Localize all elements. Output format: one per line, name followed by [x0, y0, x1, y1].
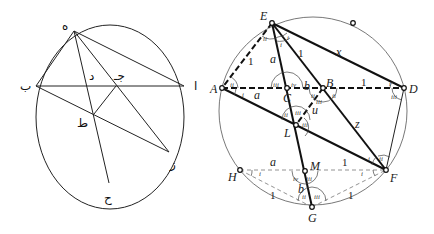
label-F: F: [389, 171, 398, 185]
point-G: [310, 205, 315, 210]
right-figure: E A C B D L M H F G 1 a 1 x a b 1 u z a …: [209, 9, 418, 225]
angle-A-bot: i: [242, 91, 244, 99]
label-A: A: [209, 82, 218, 96]
seg-EA: [222, 23, 272, 88]
point-F: [384, 168, 389, 173]
label-C: C: [283, 91, 292, 105]
angle-arcs: [231, 33, 402, 201]
line-h-b: [36, 31, 74, 86]
line-b-z: [36, 86, 169, 152]
angle-M-right: iii: [306, 175, 312, 183]
seg-label-MF: 1: [342, 156, 348, 168]
label-d: د: [89, 69, 94, 83]
label-hh: ح: [104, 191, 112, 205]
angle-F-left: i: [368, 155, 370, 163]
label-M: M: [309, 159, 321, 173]
seg-label-EC: a: [270, 52, 276, 66]
label-z: ز: [169, 157, 176, 172]
angle-B-right: ii: [332, 92, 336, 100]
angle-D-top: i: [389, 80, 391, 88]
angle-G-right: iii: [314, 193, 320, 201]
angle-E-mid: i: [280, 41, 282, 49]
angle-C-left: iii: [273, 81, 279, 89]
angle-H: i: [259, 170, 261, 178]
label-E: E: [259, 9, 268, 23]
geometry-figures: ه ب ا د جـ ط ز ح: [0, 0, 434, 234]
label-G: G: [308, 211, 317, 225]
angle-E-left: ii: [263, 35, 267, 43]
angle-E-right: i: [287, 34, 289, 42]
seg-label-ED: x: [335, 45, 342, 59]
point-L: [294, 123, 299, 128]
angle-G-left: ii: [302, 193, 306, 201]
label-b: ب: [20, 79, 31, 93]
label-j: جـ: [113, 69, 125, 83]
angle-L-left: ii: [284, 111, 288, 119]
angle-F-bot: i: [361, 170, 363, 178]
point-D: [402, 86, 407, 91]
seg-label-BD: 1: [361, 76, 367, 88]
angle-B-left: ii: [311, 92, 315, 100]
seg-label-HG: 1: [270, 189, 276, 201]
seg-label-EA: 1: [248, 55, 254, 67]
label-a: ا: [194, 79, 197, 93]
left-circle: [36, 25, 184, 209]
seg-label-EB: 1: [298, 47, 304, 59]
point-C: [285, 86, 290, 91]
angle-F-top: ii: [379, 155, 383, 163]
angle-L-mid: iii: [295, 109, 301, 117]
point-extra: [351, 21, 356, 26]
angle-D-bot: iii: [391, 93, 397, 101]
point-A: [220, 86, 225, 91]
angle-C-right: iv: [291, 81, 297, 89]
angle-A-top: ii: [230, 81, 234, 89]
seg-label-AC: a: [254, 88, 260, 102]
point-M: [303, 169, 308, 174]
seg-label-CB: b: [304, 79, 310, 93]
label-L: L: [283, 126, 291, 140]
label-D: D: [408, 82, 418, 96]
label-B: B: [326, 76, 334, 90]
left-figure: ه ب ا د جـ ط ز ح: [20, 19, 197, 209]
angle-L-right: iii: [302, 121, 308, 129]
label-t: ط: [77, 116, 88, 130]
label-h: ه: [62, 19, 68, 33]
point-H: [238, 168, 243, 173]
line-j-t: [94, 86, 116, 114]
point-E: [270, 21, 275, 26]
angle-B-mid: iii: [316, 98, 322, 106]
seg-label-GF: 1: [348, 189, 354, 201]
seg-label-BF: z: [354, 117, 360, 131]
seg-AF: [222, 88, 386, 170]
point-B: [321, 86, 326, 91]
label-H: H: [227, 170, 238, 184]
angle-M-left: iv: [293, 175, 299, 183]
seg-label-HM: a: [270, 155, 276, 169]
